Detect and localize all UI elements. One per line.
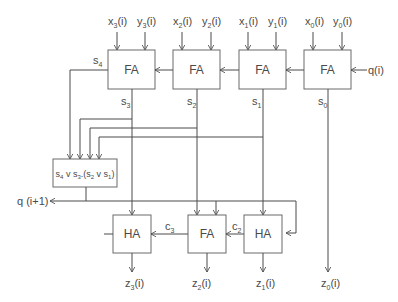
full-adder-2: FA bbox=[173, 50, 220, 89]
svg-text:FA: FA bbox=[200, 227, 215, 241]
svg-text:x3(i): x3(i) bbox=[108, 15, 127, 29]
svg-text:HA: HA bbox=[255, 227, 272, 241]
z2-label: z2(i) bbox=[192, 277, 211, 291]
s0-label: s0 bbox=[318, 95, 328, 109]
q-next-label: q (i+1) bbox=[17, 195, 49, 207]
svg-text:s4 v s3.(s2 v s1): s4 v s3.(s2 v s1) bbox=[56, 169, 115, 180]
q-i-label: q(i) bbox=[368, 64, 384, 76]
input-labels: x3(i) y3(i) x2(i) y2(i) x1(i) y1(i) x0(i… bbox=[108, 15, 352, 29]
s3-wire bbox=[80, 89, 132, 215]
half-adder-1: HA bbox=[244, 215, 282, 253]
s1-label: s1 bbox=[252, 95, 262, 109]
input-wires bbox=[117, 32, 342, 50]
c2-label: c2 bbox=[232, 220, 242, 234]
svg-text:HA: HA bbox=[124, 227, 141, 241]
z3-label: z3(i) bbox=[125, 277, 144, 291]
s1-wire bbox=[99, 89, 263, 215]
svg-text:y3(i): y3(i) bbox=[137, 15, 156, 29]
svg-text:FA: FA bbox=[189, 63, 204, 77]
s4-label: s4 bbox=[93, 54, 103, 68]
full-adder-0: FA bbox=[304, 50, 351, 89]
half-adder-3: HA bbox=[113, 215, 151, 253]
full-adder-1: FA bbox=[239, 50, 286, 89]
s2-wire bbox=[90, 89, 197, 215]
circuit-diagram: x3(i) y3(i) x2(i) y2(i) x1(i) y1(i) x0(i… bbox=[0, 0, 398, 302]
z0-label: z0(i) bbox=[321, 277, 340, 291]
full-adder-low: FA bbox=[188, 215, 226, 253]
svg-text:y1(i): y1(i) bbox=[268, 15, 287, 29]
c3-label: c3 bbox=[165, 220, 175, 234]
logic-box: s4 v s3.(s2 v s1) bbox=[53, 159, 117, 187]
svg-text:FA: FA bbox=[320, 63, 335, 77]
s2-label: s2 bbox=[187, 95, 197, 109]
full-adder-3: FA bbox=[108, 50, 155, 89]
s4-wire bbox=[70, 70, 108, 159]
svg-text:FA: FA bbox=[124, 63, 139, 77]
svg-text:x1(i): x1(i) bbox=[239, 15, 258, 29]
s3-label: s3 bbox=[121, 95, 131, 109]
z1-label: z1(i) bbox=[256, 277, 275, 291]
svg-text:y0(i): y0(i) bbox=[333, 15, 352, 29]
svg-text:y2(i): y2(i) bbox=[202, 15, 221, 29]
svg-text:x2(i): x2(i) bbox=[173, 15, 192, 29]
output-wires bbox=[132, 253, 263, 272]
svg-text:x0(i): x0(i) bbox=[305, 15, 324, 29]
svg-text:FA: FA bbox=[255, 63, 270, 77]
